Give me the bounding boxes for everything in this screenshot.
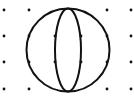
grid-dot xyxy=(3,9,6,12)
curve-dot xyxy=(80,61,83,64)
curve-dot xyxy=(54,35,57,38)
grid-dot xyxy=(130,61,133,64)
grid-dot xyxy=(130,88,133,91)
grid-dot xyxy=(3,61,6,64)
inner-ellipse xyxy=(55,9,81,92)
grid-dot xyxy=(3,35,6,38)
grid-dot xyxy=(28,9,31,12)
curve-dots xyxy=(28,35,109,64)
grid-dot xyxy=(28,88,31,91)
curve-dot xyxy=(106,61,109,64)
grid-dot xyxy=(130,35,133,38)
curve-dot xyxy=(28,61,31,64)
curve-dot xyxy=(54,61,57,64)
grid-dot xyxy=(106,88,109,91)
grid-dot xyxy=(3,88,6,91)
grid-dot xyxy=(106,9,109,12)
sphere-diagram xyxy=(0,0,134,111)
outer-circle xyxy=(27,9,110,92)
curve-dot xyxy=(106,35,109,38)
grid-dots xyxy=(3,9,133,91)
curve-dot xyxy=(28,35,31,38)
curve-dot xyxy=(80,35,83,38)
grid-dot xyxy=(130,9,133,12)
